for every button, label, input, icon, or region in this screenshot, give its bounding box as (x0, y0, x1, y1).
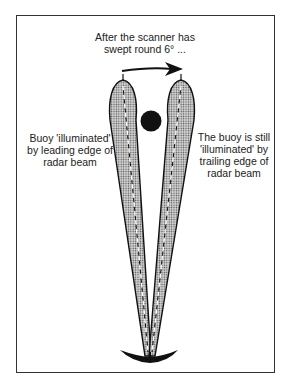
radar-beam-diagram (0, 0, 290, 391)
buoy-icon (141, 111, 162, 132)
right-line-3: trailing edge of (194, 155, 274, 167)
left-line-2: by leading edge of (22, 144, 118, 156)
arrow-right-icon (122, 62, 183, 76)
leading-edge-annotation: Buoy 'illuminated' by leading edge of ra… (22, 132, 118, 168)
right-line-4: radar beam (194, 167, 274, 179)
trailing-edge-annotation: The buoy is still 'illuminated' by trail… (194, 131, 274, 179)
right-line-1: The buoy is still (194, 131, 274, 143)
right-line-2: 'illuminated' by (194, 143, 274, 155)
left-line-1: Buoy 'illuminated' (22, 132, 118, 144)
left-line-3: radar beam (22, 156, 118, 168)
